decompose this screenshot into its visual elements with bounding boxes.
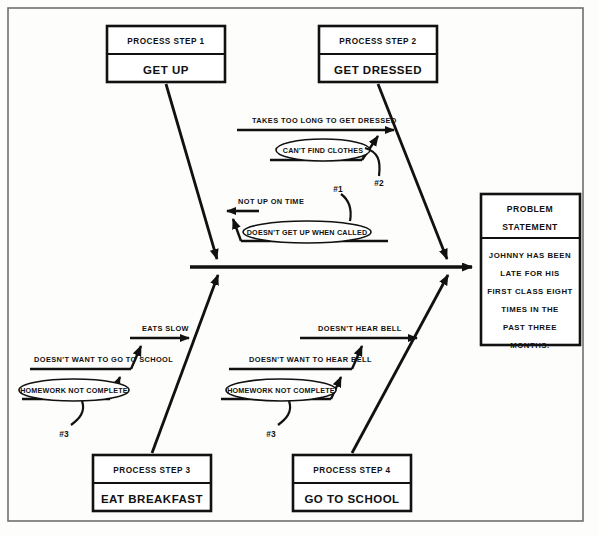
problem-statement-line-1: JOHNNY HAS BEEN — [489, 251, 571, 260]
problem-statement-line-6: MONTHS. — [510, 341, 549, 350]
root-cause-label-homework-right: HOMEWORK NOT COMPLETE — [227, 386, 335, 395]
problem-statement-line-2: LATE FOR HIS — [500, 269, 560, 278]
bone-step-1 — [166, 84, 217, 259]
problem-statement-line-5: PAST THREE — [503, 323, 557, 332]
root-cause-label-doesnt-get-up: DOESN'T GET UP WHEN CALLED — [247, 228, 368, 237]
root-cause-oval-doesnt-get-up: DOESN'T GET UP WHEN CALLED — [243, 221, 371, 243]
bone-step-2 — [378, 84, 447, 259]
rootcause-elbow-doesnt-get-up — [233, 219, 241, 241]
root-cause-label-cant-find-clothes: CAN'T FIND CLOTHES — [283, 146, 363, 155]
problem-statement-box: PROBLEM STATEMENT JOHNNY HAS BEEN LATE F… — [481, 194, 580, 350]
cause-label-doesnt-want-hear-bell: DOESN'T WANT TO HEAR BELL — [249, 355, 372, 364]
root-cause-oval-cant-find-clothes: CAN'T FIND CLOTHES — [276, 139, 370, 161]
problem-statement-header-2: STATEMENT — [502, 222, 558, 232]
process-step-2-header: PROCESS STEP 2 — [339, 37, 416, 46]
reference-marker-3-right: #3 — [266, 429, 276, 439]
process-step-4-box: PROCESS STEP 4 GO TO SCHOOL — [293, 455, 411, 511]
process-step-1-header: PROCESS STEP 1 — [127, 37, 204, 46]
fishbone-diagram: PROCESS STEP 1 GET UP PROCESS STEP 2 GET… — [0, 0, 599, 536]
root-cause-oval-homework-right: HOMEWORK NOT COMPLETE — [226, 379, 336, 401]
process-step-3-label: EAT BREAKFAST — [101, 493, 203, 505]
process-step-1-label: GET UP — [143, 64, 189, 76]
cause-label-takes-too-long: TAKES TOO LONG TO GET DRESSED — [252, 116, 397, 125]
cause-label-eats-slow: EATS SLOW — [142, 324, 189, 333]
problem-statement-line-3: FIRST CLASS EIGHT — [487, 287, 573, 296]
leader-curve-ref-3-right — [278, 401, 290, 425]
process-step-4-label: GO TO SCHOOL — [304, 493, 399, 505]
process-step-4-header: PROCESS STEP 4 — [313, 466, 390, 475]
reference-marker-2: #2 — [374, 178, 384, 188]
leader-curve-ref-1 — [341, 194, 351, 221]
reference-marker-3-left: #3 — [59, 429, 69, 439]
root-cause-oval-homework-left: HOMEWORK NOT COMPLETE — [19, 379, 129, 401]
leader-curve-ref-3-left — [71, 401, 83, 425]
bone-step-3 — [152, 275, 218, 453]
cause-label-doesnt-want-school: DOESN'T WANT TO GO TO SCHOOL — [34, 355, 173, 364]
process-step-3-box: PROCESS STEP 3 EAT BREAKFAST — [93, 455, 211, 511]
process-step-3-header: PROCESS STEP 3 — [113, 466, 190, 475]
process-step-2-box: PROCESS STEP 2 GET DRESSED — [319, 26, 437, 82]
fishbone-canvas: PROCESS STEP 1 GET UP PROCESS STEP 2 GET… — [0, 0, 599, 536]
process-step-1-box: PROCESS STEP 1 GET UP — [107, 26, 225, 82]
cause-label-not-up-on-time: NOT UP ON TIME — [238, 197, 304, 206]
bone-step-4 — [352, 275, 448, 453]
reference-marker-1: #1 — [333, 184, 343, 194]
cause-label-doesnt-hear-bell: DOESN'T HEAR BELL — [318, 324, 402, 333]
problem-statement-header-1: PROBLEM — [507, 204, 553, 214]
root-cause-label-homework-left: HOMEWORK NOT COMPLETE — [20, 386, 128, 395]
problem-statement-line-4: TIMES IN THE — [501, 305, 559, 314]
process-step-2-label: GET DRESSED — [334, 64, 422, 76]
